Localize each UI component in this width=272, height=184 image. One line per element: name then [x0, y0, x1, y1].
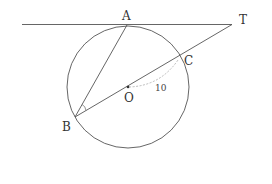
label-b: B	[62, 120, 71, 134]
label-c: C	[184, 54, 193, 68]
diagram-canvas: A T C O B 10	[0, 0, 272, 184]
label-radius-10: 10	[155, 83, 167, 93]
chord-ab	[75, 25, 127, 117]
label-o: O	[124, 91, 134, 105]
radius-dashed-arc	[129, 60, 178, 87]
angle-mark-b	[82, 105, 86, 111]
label-t: T	[239, 13, 247, 27]
label-a: A	[121, 9, 131, 23]
geometry-figure: A T C O B 10	[0, 0, 272, 184]
center-point-o	[127, 86, 130, 89]
secant-line-bt	[75, 25, 232, 118]
